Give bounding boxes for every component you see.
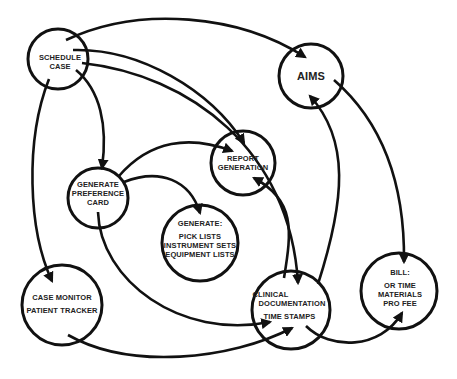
label-line: AIMS <box>297 70 325 82</box>
edge-schedule-monitor <box>32 79 52 281</box>
label-line: EQUIPMENT LISTS <box>164 250 236 259</box>
label-line: GENERATE <box>72 180 124 189</box>
label-line: PREFERENCE <box>72 189 124 198</box>
label-generate-preference-card: GENERATE PREFERENCE CARD <box>72 180 124 207</box>
label-title: GENERATE: <box>164 219 236 228</box>
edge-clinical-report <box>254 178 289 278</box>
label-report-generation: REPORT GENERATION <box>218 154 268 172</box>
label-bill: BILL: OR TIME MATERIALS PRO FEE <box>378 268 422 308</box>
label-generate-pick-lists: GENERATE: PICK LISTS INSTRUMENT SETS EQU… <box>164 219 236 259</box>
label-line: CARD <box>72 198 124 207</box>
label-line: CLINICAL <box>253 290 326 299</box>
label-line: GENERATION <box>218 163 268 172</box>
edge-clinical-aims <box>310 96 339 284</box>
edge-schedule-pref <box>76 70 104 168</box>
label-line: REPORT <box>218 154 268 163</box>
label-line: CASE MONITOR <box>26 293 97 302</box>
label-line: OR TIME <box>378 281 422 290</box>
label-line: CASE <box>39 62 81 71</box>
label-clinical-documentation: CLINICAL DOCUMENTATION TIME STAMPS <box>257 290 326 321</box>
label-line: PRO FEE <box>378 299 422 308</box>
label-line: SCHEDULE <box>39 53 81 62</box>
label-line: PATIENT TRACKER <box>26 306 97 315</box>
label-line: MATERIALS <box>378 290 422 299</box>
edge-aims-bill <box>334 80 404 262</box>
label-line: INSTRUMENT SETS <box>164 241 236 250</box>
label-line: DOCUMENTATION <box>259 299 326 308</box>
label-case-monitor: CASE MONITOR PATIENT TRACKER <box>26 293 97 315</box>
label-aims: AIMS <box>297 70 325 82</box>
label-line: PICK LISTS <box>164 232 236 241</box>
label-line: TIME STAMPS <box>264 312 326 321</box>
edge-schedule-report <box>73 50 244 143</box>
label-title: BILL: <box>378 268 422 277</box>
label-schedule-case: SCHEDULE CASE <box>39 53 81 71</box>
